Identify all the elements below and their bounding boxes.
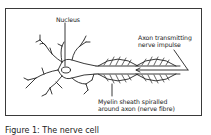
nucleus xyxy=(62,67,71,73)
dendrites xyxy=(24,35,96,96)
axon-label-line1: Axon transmitting xyxy=(138,34,192,41)
myelin-label-line2: around axon (nerve fibre) xyxy=(98,105,175,112)
axon-label-line2: nerve impulse xyxy=(138,41,181,48)
neuron-illustration xyxy=(0,0,211,135)
nucleus-label: Nucleus xyxy=(56,16,80,23)
myelin-label-line1: Myelin sheath spiralled xyxy=(98,98,167,105)
figure-caption: Figure 1: The nerve cell xyxy=(5,126,99,135)
axon-pointer xyxy=(174,50,188,70)
